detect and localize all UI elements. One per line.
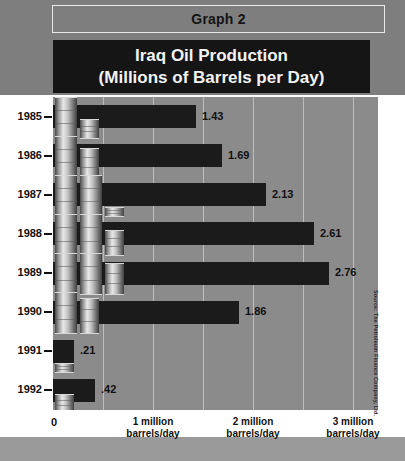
bar-value-label: .42 [101,383,116,395]
x-axis-label-line2: barrels/day [226,428,279,440]
y-axis-tick [44,389,52,391]
y-axis-tick [44,116,52,118]
oil-barrel-icon [55,214,77,256]
y-axis-tick [44,350,52,352]
oil-barrel-icon [80,119,99,138]
y-axis-label-1989: 1989 [8,266,42,278]
oil-barrel-icon [55,253,77,295]
graph-header-label: Graph 2 [191,11,245,27]
oil-barrel-icon [55,175,77,217]
chart-title-line2: (Millions of Barrels per Day) [99,67,325,89]
y-axis-label-1985: 1985 [8,110,42,122]
y-axis-tick [44,272,52,274]
y-axis-label-1987: 1987 [8,188,42,200]
y-axis-label-1992: 1992 [8,383,42,395]
bar-value-label: 2.61 [320,227,341,239]
x-axis-label-line2: barrels/day [326,428,379,440]
y-axis-tick [44,311,52,313]
oil-barrel-icon [55,136,77,178]
oil-barrel-icon [80,175,102,217]
oil-barrel-icon [105,263,124,295]
x-axis-label-3: 3 millionbarrels/day [326,416,379,440]
x-axis-label-line1: 1 million [126,416,179,428]
bar-value-label: 2.13 [272,188,293,200]
x-axis-label-2: 2 millionbarrels/day [226,416,279,440]
y-axis-tick [44,233,52,235]
bar-1991 [53,340,74,363]
x-axis-label-line1: 3 million [326,416,379,428]
bar-1986 [53,144,222,167]
graph-header: Graph 2 [52,5,385,33]
y-axis-label-1986: 1986 [8,149,42,161]
bar-value-label: 1.69 [228,149,249,161]
y-axis-label-1988: 1988 [8,227,42,239]
oil-barrel-icon [105,230,124,256]
oil-barrel-icon [55,363,74,373]
oil-barrel-icon [80,253,102,295]
bar-value-label: 1.43 [202,110,223,122]
oil-barrel-icon [80,214,102,256]
x-axis-label-line2: barrels/day [126,428,179,440]
oil-barrel-icon [55,394,74,410]
oil-barrel-icon [105,207,124,217]
y-axis-tick [44,194,52,196]
x-axis-label-line1: 2 million [226,416,279,428]
source-credit: Source: The Petroleum Finance Company, L… [373,290,379,416]
chart-title-line1: Iraq Oil Production [135,45,288,67]
y-axis-label-strip [0,95,53,428]
bar-value-label: 2.76 [335,266,356,278]
bar-value-label: .21 [80,344,95,356]
bar-value-label: 1.86 [245,305,266,317]
y-axis-label-1991: 1991 [8,344,42,356]
page-bottom-band [0,437,405,461]
gridline [353,97,354,410]
chart-plot-area: 1.431.692.132.612.761.86.21.42 [53,97,378,410]
gridline [303,97,304,410]
y-axis-tick [44,155,52,157]
x-axis-label-1: 1 millionbarrels/day [126,416,179,440]
oil-barrel-icon [80,148,99,178]
x-axis-label-0: 0 [51,416,57,428]
chart-title-banner: Iraq Oil Production (Millions of Barrels… [53,40,370,93]
y-axis-label-1990: 1990 [8,305,42,317]
oil-barrel-icon [55,292,77,334]
oil-barrel-icon [80,298,99,334]
gridline [253,97,254,410]
oil-barrel-icon [55,97,77,139]
